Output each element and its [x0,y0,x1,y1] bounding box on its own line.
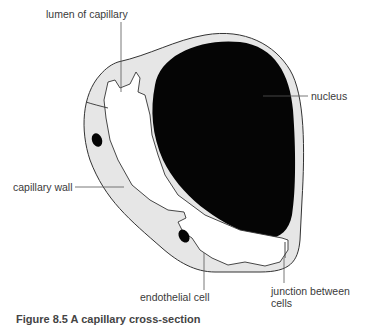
label-endothelial-cell: endothelial cell [140,291,209,303]
label-junction-line1: junction between [271,285,350,297]
label-lumen: lumen of capillary [46,8,128,20]
label-nucleus: nucleus [311,90,347,102]
label-capillary-wall: capillary wall [13,181,73,193]
label-junction-line2: cells [271,297,292,309]
figure-caption: Figure 8.5 A capillary cross-section [16,313,200,325]
